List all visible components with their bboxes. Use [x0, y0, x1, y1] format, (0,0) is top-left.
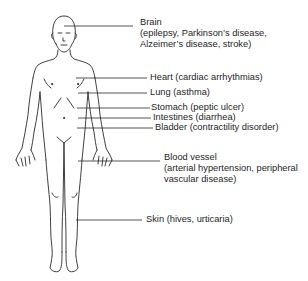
- label-heart: Heart (cardiac arrhythmias): [150, 72, 263, 83]
- label-blood-vessel: Blood vessel (arterial hypertension, per…: [164, 152, 298, 185]
- body-outline: [16, 16, 112, 272]
- label-bladder: Bladder (contractility disorder): [155, 122, 279, 133]
- label-skin: Skin (hives, urticaria): [146, 214, 233, 225]
- label-brain: Brain (epilepsy, Parkinson’s disease, Al…: [140, 17, 267, 50]
- label-lung: Lung (asthma): [150, 87, 210, 98]
- leader-lines: [64, 26, 160, 220]
